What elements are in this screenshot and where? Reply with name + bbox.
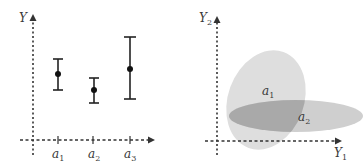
mean-point-a3: [127, 66, 133, 72]
arrow-up-icon: [30, 14, 37, 21]
left-y-axis: [30, 14, 37, 155]
error-bar-a3: [124, 37, 136, 99]
x-tick-label-a3: a3: [124, 147, 136, 163]
arrow-up-icon: [214, 16, 221, 23]
x-tick-label-a2: a2: [88, 147, 100, 163]
right-x-axis-label: Y1: [334, 146, 347, 162]
arrow-right-icon: [148, 137, 155, 144]
error-bar-a2: [89, 78, 99, 103]
left-x-axis: [20, 136, 155, 144]
right-y-axis-label: Y2: [199, 11, 212, 27]
arrow-right-icon: [335, 138, 342, 145]
right-panel: Y2 Y1 a1 a2: [199, 11, 363, 162]
mean-point-a2: [91, 87, 97, 93]
error-bar-a1: [53, 59, 63, 90]
left-panel: Y a1 a2 a3: [19, 11, 155, 163]
left-y-axis-label: Y: [19, 11, 28, 25]
mean-point-a1: [55, 71, 61, 77]
ellipse-a1: [213, 39, 319, 161]
diagram-canvas: Y a1 a2 a3: [0, 0, 364, 168]
right-y-axis: [214, 16, 221, 155]
x-tick-label-a1: a1: [52, 147, 64, 163]
